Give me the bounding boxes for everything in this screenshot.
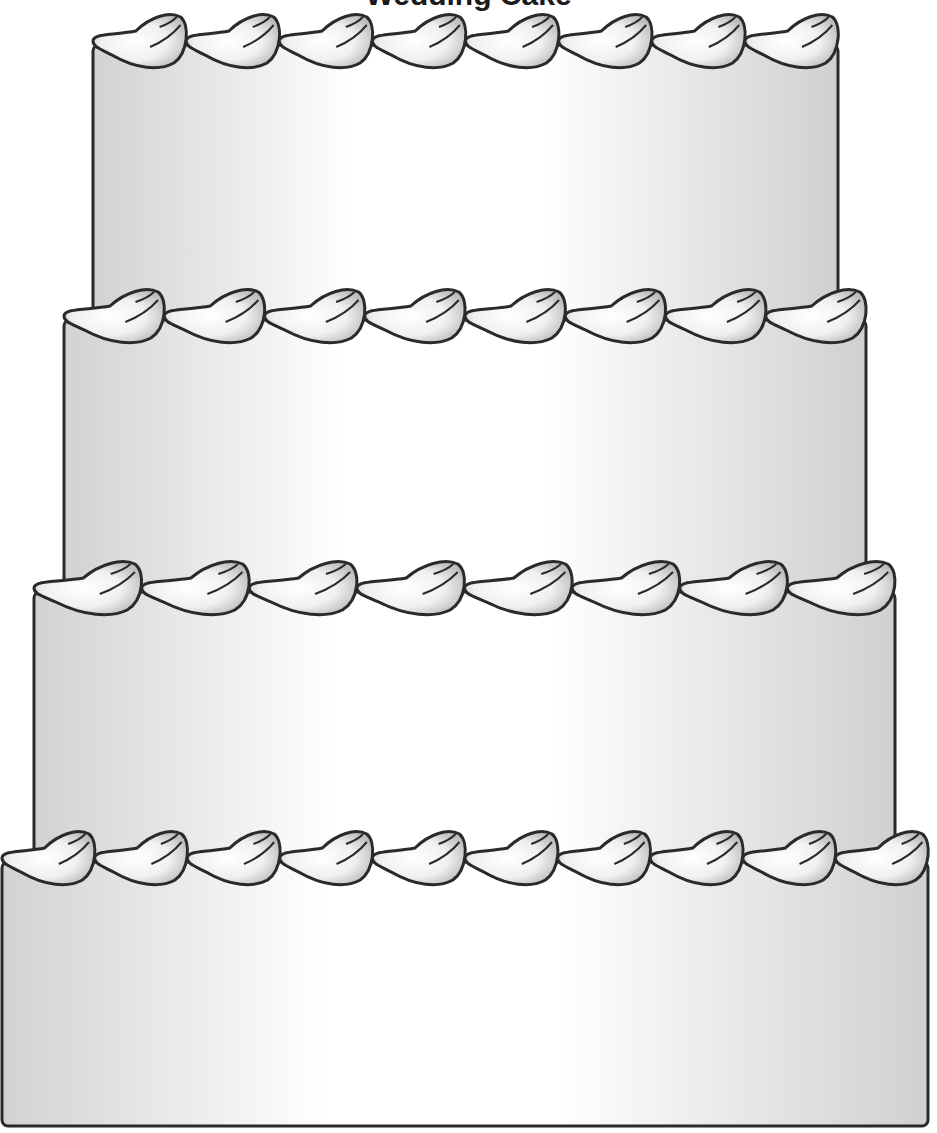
tier-4 — [2, 862, 928, 1126]
tier-3 — [34, 592, 895, 860]
tier-2 — [64, 320, 866, 590]
tier-1 — [93, 45, 838, 315]
wedding-cake-illustration — [0, 0, 937, 1133]
